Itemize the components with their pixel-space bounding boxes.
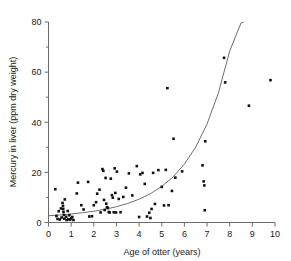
data-point	[66, 210, 69, 213]
x-tick-label: 0	[46, 229, 51, 239]
x-tick-label: 7	[205, 229, 210, 239]
x-tick-label: 4	[137, 229, 142, 239]
data-point	[77, 181, 80, 184]
x-tick-label: 3	[114, 229, 119, 239]
data-point	[154, 203, 157, 206]
x-tick-label: 6	[182, 229, 187, 239]
data-point	[105, 202, 108, 205]
data-point	[56, 218, 59, 221]
y-tick-label: 40	[31, 118, 41, 128]
data-point	[63, 214, 66, 217]
data-point	[62, 211, 65, 214]
data-point	[163, 204, 166, 207]
data-point	[141, 172, 144, 175]
data-point	[80, 204, 83, 207]
x-tick-label: 10	[270, 229, 280, 239]
data-point	[139, 173, 142, 176]
data-point	[269, 79, 272, 82]
data-point	[108, 211, 111, 214]
y-axis-ticks	[45, 22, 49, 223]
data-point	[122, 196, 125, 199]
fit-curve	[49, 22, 244, 216]
y-tick-label: 0	[36, 218, 41, 228]
data-point	[201, 164, 204, 167]
data-point	[111, 194, 114, 197]
data-point	[112, 196, 115, 199]
data-point	[116, 170, 119, 173]
data-point	[60, 216, 63, 219]
data-point	[112, 211, 115, 214]
data-point	[114, 192, 117, 195]
data-point	[143, 183, 146, 186]
data-point	[113, 167, 116, 170]
data-point	[223, 57, 226, 60]
data-point	[160, 186, 163, 189]
data-point	[68, 214, 71, 217]
data-point	[72, 219, 75, 222]
data-point	[119, 211, 122, 214]
data-point	[248, 104, 251, 107]
x-axis-tick-labels: 012345678910	[46, 229, 280, 239]
y-tick-label: 60	[31, 67, 41, 77]
data-point	[61, 202, 64, 205]
data-point	[62, 205, 65, 208]
data-point	[204, 140, 207, 143]
data-point	[136, 165, 139, 168]
scatter-plot: Mercury in liver (ppm dry weight) Age of…	[0, 0, 291, 261]
data-point	[202, 180, 205, 183]
data-point	[88, 215, 91, 218]
data-point	[71, 216, 74, 219]
data-point	[64, 198, 67, 201]
data-point	[138, 216, 141, 219]
data-point	[57, 210, 60, 213]
data-point	[172, 137, 175, 140]
data-point	[102, 170, 105, 173]
data-point	[203, 184, 206, 187]
data-point	[62, 208, 65, 211]
x-tick-label: 5	[159, 229, 164, 239]
data-point	[128, 172, 131, 175]
y-tick-label: 20	[31, 168, 41, 178]
data-point	[150, 208, 153, 211]
data-point	[148, 211, 151, 214]
data-point	[131, 194, 134, 197]
x-tick-label: 1	[69, 229, 74, 239]
data-point	[55, 215, 58, 218]
data-point	[95, 201, 98, 204]
data-point	[149, 217, 152, 220]
data-point	[96, 192, 99, 195]
data-point	[103, 199, 106, 202]
data-points	[54, 57, 272, 222]
x-axis-title: Age of otter (years)	[123, 247, 200, 257]
data-point	[181, 170, 184, 173]
data-point	[104, 177, 107, 180]
data-point	[115, 211, 118, 214]
data-point	[167, 204, 170, 207]
data-point	[82, 208, 85, 211]
data-point	[166, 87, 169, 90]
data-point	[91, 215, 94, 218]
data-point	[165, 169, 168, 172]
data-point	[60, 207, 63, 210]
data-point	[224, 81, 227, 84]
data-point	[93, 204, 96, 207]
x-axis-ticks	[49, 223, 276, 227]
y-axis-title: Mercury in liver (ppm dry weight)	[8, 57, 18, 188]
data-point	[146, 215, 149, 218]
data-point	[76, 192, 79, 195]
data-point	[87, 181, 90, 184]
data-point	[99, 211, 102, 214]
x-tick-label: 2	[91, 229, 96, 239]
chart-figure: Mercury in liver (ppm dry weight) Age of…	[0, 0, 291, 261]
x-tick-label: 9	[250, 229, 255, 239]
data-point	[171, 190, 174, 193]
data-point	[125, 186, 128, 189]
x-tick-label: 8	[227, 229, 232, 239]
data-point	[65, 215, 68, 218]
data-point	[174, 176, 177, 179]
data-point	[152, 172, 155, 175]
data-point	[203, 209, 206, 212]
data-point	[54, 188, 57, 191]
data-point	[107, 207, 110, 210]
data-point	[103, 209, 106, 212]
